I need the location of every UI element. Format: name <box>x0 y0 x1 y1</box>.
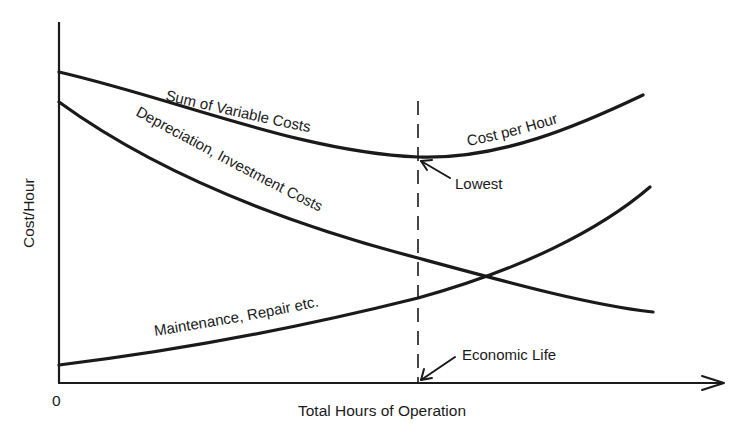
label-cost-per-hour: Cost per Hour <box>465 109 559 149</box>
annotation-economic-life: Economic Life <box>421 346 556 380</box>
curve-maintenance-repair <box>59 187 650 365</box>
economic-life-label: Economic Life <box>462 346 556 363</box>
label-maintenance-repair: Maintenance, Repair etc. <box>153 293 320 339</box>
economic-life-arrow-icon <box>421 357 455 380</box>
origin-label: 0 <box>52 392 61 409</box>
chart-canvas: Sum of Variable Costs Cost per Hour Depr… <box>0 0 745 437</box>
annotation-lowest: Lowest <box>421 160 503 192</box>
economic-life-chart: Sum of Variable Costs Cost per Hour Depr… <box>0 0 745 437</box>
lowest-label: Lowest <box>455 175 503 192</box>
curve-depreciation-investment <box>59 102 653 312</box>
x-axis-label: Total Hours of Operation <box>298 402 466 419</box>
lowest-arrow-icon <box>421 161 450 178</box>
y-axis-label: Cost/Hour <box>20 178 37 248</box>
